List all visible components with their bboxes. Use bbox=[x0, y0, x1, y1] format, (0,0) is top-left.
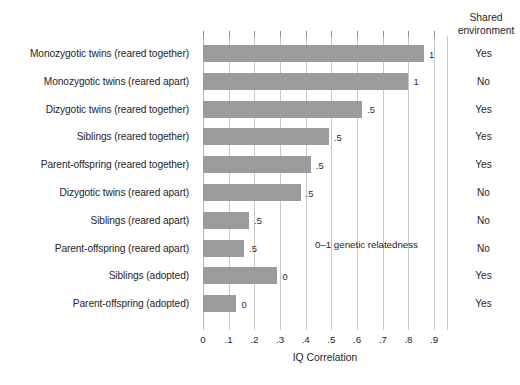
bar-value-label: 1 bbox=[413, 76, 418, 87]
shared-environment-row: No bbox=[447, 73, 520, 90]
category-label-row: Parent-offspring (adopted) bbox=[0, 295, 196, 312]
x-tick-label: .2 bbox=[250, 334, 258, 345]
shared-environment-header-line1: Shared bbox=[455, 12, 517, 25]
bar-row: .5 bbox=[203, 212, 447, 229]
shared-environment-value: No bbox=[477, 187, 490, 198]
bar bbox=[203, 240, 244, 257]
category-label-row: Parent-offspring (reared together) bbox=[0, 156, 196, 173]
shared-environment-value: Yes bbox=[475, 159, 491, 170]
shared-environment-value: No bbox=[477, 243, 490, 254]
category-label-row: Monozygotic twins (reared together) bbox=[0, 45, 196, 62]
shared-environment-row: No bbox=[447, 212, 520, 229]
bar-value-label: .5 bbox=[316, 159, 324, 170]
bar bbox=[203, 184, 301, 201]
category-label: Siblings (adopted) bbox=[109, 270, 189, 281]
bar-value-label: .5 bbox=[334, 131, 342, 142]
shared-environment-row: Yes bbox=[447, 128, 520, 145]
category-label-row: Monozygotic twins (reared apart) bbox=[0, 73, 196, 90]
x-tick-label: .7 bbox=[379, 334, 387, 345]
shared-environment-values: YesNoYesYesYesNoNoNoYesYes bbox=[447, 45, 520, 323]
category-label-row: Dizygotic twins (reared apart) bbox=[0, 184, 196, 201]
category-label: Siblings (reared together) bbox=[77, 131, 189, 142]
genetic-relatedness-annotation: 0–1 genetic relatedness bbox=[315, 239, 418, 250]
category-axis: Monozygotic twins (reared together)Monoz… bbox=[0, 45, 196, 323]
bar-row: .5 bbox=[203, 101, 447, 118]
shared-environment-value: Yes bbox=[475, 104, 491, 115]
bar-value-label: .5 bbox=[306, 187, 314, 198]
category-label: Monozygotic twins (reared apart) bbox=[44, 76, 189, 87]
shared-environment-row: Yes bbox=[447, 267, 520, 284]
bar bbox=[203, 212, 249, 229]
bar-row: .5 bbox=[203, 156, 447, 173]
x-tick-label: .5 bbox=[327, 334, 335, 345]
shared-environment-row: No bbox=[447, 184, 520, 201]
bar-value-label: 0 bbox=[282, 270, 287, 281]
bar-row: 1 bbox=[203, 45, 447, 62]
x-axis-title: IQ Correlation bbox=[203, 352, 447, 363]
bar-value-label: .5 bbox=[367, 104, 375, 115]
x-tick-label: .8 bbox=[404, 334, 412, 345]
bar-row: 0 bbox=[203, 267, 447, 284]
category-label-row: Dizygotic twins (reared together) bbox=[0, 101, 196, 118]
category-label: Parent-offspring (reared together) bbox=[41, 159, 189, 170]
shared-environment-value: Yes bbox=[475, 48, 491, 59]
category-label-row: Siblings (adopted) bbox=[0, 267, 196, 284]
x-tick-label: 0 bbox=[200, 334, 205, 345]
shared-environment-value: Yes bbox=[475, 270, 491, 281]
category-label: Parent-offspring (reared apart) bbox=[55, 243, 189, 254]
x-axis-tick-labels: 0.1.2.3.4.5.6.7.8.9 bbox=[203, 334, 447, 348]
x-tick-label: .3 bbox=[276, 334, 284, 345]
bar bbox=[203, 267, 277, 284]
bar-row: 1 bbox=[203, 73, 447, 90]
category-label-row: Parent-offspring (reared apart) bbox=[0, 240, 196, 257]
shared-environment-header-line2: environment bbox=[455, 25, 517, 38]
category-label: Dizygotic twins (reared together) bbox=[46, 104, 189, 115]
bar bbox=[203, 128, 329, 145]
bar bbox=[203, 101, 362, 118]
shared-environment-row: No bbox=[447, 240, 520, 257]
category-label-row: Siblings (reared apart) bbox=[0, 212, 196, 229]
category-label-row: Siblings (reared together) bbox=[0, 128, 196, 145]
x-tick-label: .6 bbox=[353, 334, 361, 345]
bar-value-label: 1 bbox=[429, 48, 434, 59]
bar bbox=[203, 295, 236, 312]
category-label: Siblings (reared apart) bbox=[91, 215, 190, 226]
bar-row: 0 bbox=[203, 295, 447, 312]
bar bbox=[203, 73, 408, 90]
bar-row: .5 bbox=[203, 184, 447, 201]
iq-correlation-bar-chart: Monozygotic twins (reared together)Monoz… bbox=[0, 0, 520, 385]
category-label: Dizygotic twins (reared apart) bbox=[60, 187, 189, 198]
x-tick-label: .1 bbox=[225, 334, 233, 345]
shared-environment-value: Yes bbox=[475, 131, 491, 142]
shared-environment-row: Yes bbox=[447, 295, 520, 312]
shared-environment-row: Yes bbox=[447, 45, 520, 62]
shared-environment-value: Yes bbox=[475, 298, 491, 309]
shared-environment-row: Yes bbox=[447, 101, 520, 118]
bar bbox=[203, 156, 311, 173]
category-label: Monozygotic twins (reared together) bbox=[30, 48, 189, 59]
bar-value-label: 0 bbox=[241, 298, 246, 309]
bars-layer: 11.5.5.5.5.5.500 bbox=[203, 36, 447, 330]
x-tick-label: .4 bbox=[302, 334, 310, 345]
shared-environment-value: No bbox=[477, 76, 490, 87]
bar-row: .5 bbox=[203, 128, 447, 145]
shared-environment-value: No bbox=[477, 215, 490, 226]
shared-environment-header: Shared environment bbox=[455, 12, 517, 37]
bar-value-label: .5 bbox=[254, 215, 262, 226]
bar-value-label: .5 bbox=[249, 243, 257, 254]
bar bbox=[203, 45, 424, 62]
shared-environment-row: Yes bbox=[447, 156, 520, 173]
category-label: Parent-offspring (adopted) bbox=[73, 298, 189, 309]
plot-area: 11.5.5.5.5.5.500 bbox=[203, 36, 447, 330]
x-tick-label: .9 bbox=[430, 334, 438, 345]
